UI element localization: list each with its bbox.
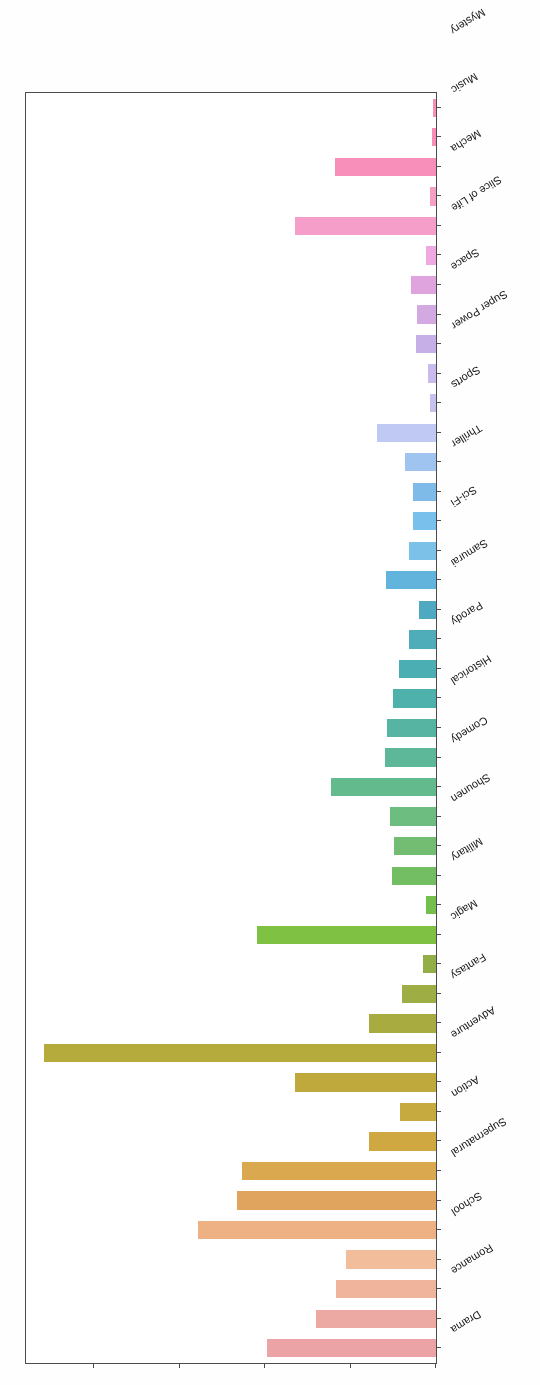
value-tick-label: 1000 (345, 1379, 357, 1385)
bar-cars (426, 246, 436, 264)
category-tick: Drama (436, 1347, 441, 1348)
category-tick: School (436, 1288, 441, 1289)
category-tick-label: Samurai (449, 537, 490, 569)
bar-military (400, 1103, 436, 1121)
category-tick-label: Music (449, 71, 480, 96)
category-tick: Demons (436, 461, 441, 462)
bar-yaoi (432, 128, 436, 146)
bar-ecchi (377, 424, 436, 442)
category-tick: Mecha (436, 757, 441, 758)
bar-shoujo-ai (430, 187, 436, 205)
bar-supernatural (346, 1251, 436, 1269)
bar-music (387, 719, 436, 737)
category-tick: Martial Arts (436, 638, 441, 639)
value-tick (179, 1363, 180, 1368)
category-tick: Shoujo Ai (436, 195, 441, 196)
category-tick-label: Military (449, 835, 485, 864)
value-tick (93, 1363, 94, 1368)
bar-sports (392, 867, 436, 885)
category-tick: Fantasy (436, 1170, 441, 1171)
bar-game (416, 335, 436, 353)
bar-psychological (413, 483, 436, 501)
category-tick: Military (436, 1111, 441, 1112)
bar-magic (369, 1132, 436, 1150)
category-tick-label: Fantasy (449, 951, 489, 982)
category-tick: Ecchi (436, 432, 441, 433)
value-tick-label: 4000 (88, 1379, 100, 1385)
bar-drama (267, 1339, 436, 1357)
category-tick: Shounen (436, 1081, 441, 1082)
category-tick-label: Mecha (449, 128, 483, 156)
bar-seinen (399, 660, 436, 678)
value-tick (435, 1363, 436, 1368)
bar-yuri (433, 99, 436, 117)
category-tick: Police (436, 520, 441, 521)
bar-slice-of-life (331, 778, 436, 796)
value-tick (350, 1363, 351, 1368)
category-tick-label: Sci-Fi (449, 485, 479, 510)
category-tick-label: Historical (449, 653, 494, 687)
category-tick: Shounen Ai (436, 373, 441, 374)
chart-figure: Countplot of genre feature DramaRomanceS… (0, 0, 540, 1385)
bar-shoujo (386, 571, 436, 589)
category-tick-label: Shounen (449, 772, 493, 806)
bar-parody (402, 985, 436, 1003)
category-tick: Seinen (436, 668, 441, 669)
category-tick: Supernatural (436, 1259, 441, 1260)
category-tick-label: Space (449, 247, 482, 274)
category-tick: Yaoi (436, 136, 441, 137)
rotated-figure-wrapper: Countplot of genre feature DramaRomanceS… (0, 0, 540, 1385)
bar-shounen (295, 1073, 436, 1091)
category-tick-label: Drama (449, 1309, 483, 1337)
bar-thriller (426, 896, 436, 914)
category-tick: Comedy (436, 1052, 441, 1053)
category-tick-label: Parody (449, 599, 485, 628)
bar-horror (409, 542, 436, 560)
category-tick: Sports (436, 875, 441, 876)
bar-space (390, 807, 436, 825)
category-tick: Vampire (436, 609, 441, 610)
category-tick: Horror (436, 550, 441, 551)
bar-comedy (44, 1044, 436, 1062)
bar-mystery (393, 689, 436, 707)
bar-vampire (419, 601, 436, 619)
bar-kids (295, 217, 436, 235)
category-tick-label: Super Power (449, 289, 509, 333)
category-tick: Thriller (436, 904, 441, 905)
category-tick: Parody (436, 993, 441, 994)
category-tick: Historical (436, 1022, 441, 1023)
category-tick: Slice of Life (436, 786, 441, 787)
category-tick: Mystery (436, 697, 441, 698)
bar-shounen-ai (428, 364, 436, 382)
bar-martial-arts (409, 630, 436, 648)
category-tick: Yuri (436, 107, 441, 108)
category-tick-label: Sports (449, 365, 482, 392)
category-tick: Dementia (436, 314, 441, 315)
bar-mecha (385, 748, 436, 766)
category-tick: Josei (436, 402, 441, 403)
bar-dementia (417, 305, 436, 323)
category-tick-label: Supernatural (449, 1116, 509, 1160)
category-tick-label: School (449, 1191, 484, 1219)
category-tick-label: Comedy (449, 714, 490, 746)
bar-adventure (237, 1191, 436, 1209)
category-tick: Sci-Fi (436, 934, 441, 935)
category-tick: Space (436, 816, 441, 817)
value-tick-label: 2000 (259, 1379, 271, 1385)
bar-action (198, 1221, 436, 1239)
category-tick: Action (436, 1229, 441, 1230)
bars-container: DramaRomanceSchoolSupernaturalActionAdve… (26, 93, 436, 1363)
value-tick-label: 0 (430, 1379, 442, 1385)
category-tick: Hentai (436, 166, 441, 167)
category-tick-label: Mystery (449, 7, 488, 38)
category-tick: Samurai (436, 963, 441, 964)
bar-historical (369, 1014, 436, 1032)
plot-area: DramaRomanceSchoolSupernaturalActionAdve… (25, 92, 437, 1364)
category-tick: Kids (436, 225, 441, 226)
bar-josei (430, 394, 436, 412)
bar-romance (316, 1310, 436, 1328)
category-tick: Super Power (436, 845, 441, 846)
category-tick-label: Action (449, 1074, 481, 1100)
category-tick: Shoujo (436, 579, 441, 580)
category-tick-label: Magic (449, 897, 480, 923)
